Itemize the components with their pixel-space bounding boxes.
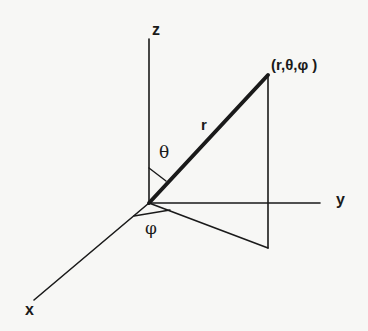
phi-label: φ <box>145 220 157 237</box>
theta-label: θ <box>159 144 169 161</box>
radius-vector <box>149 75 268 203</box>
spherical-coordinates-diagram: z y x r θ φ (r,θ,φ ) <box>0 0 368 331</box>
x-axis-line <box>34 203 149 300</box>
y-axis-label: y <box>336 192 345 208</box>
diagram-lines <box>0 0 368 331</box>
z-axis-label: z <box>152 22 160 38</box>
xy-plane-projection-line <box>149 203 268 248</box>
radius-label: r <box>201 117 207 132</box>
point-coordinates-label: (r,θ,φ ) <box>271 57 317 72</box>
theta-angle-marker <box>149 168 166 181</box>
x-axis-label: x <box>25 302 34 318</box>
